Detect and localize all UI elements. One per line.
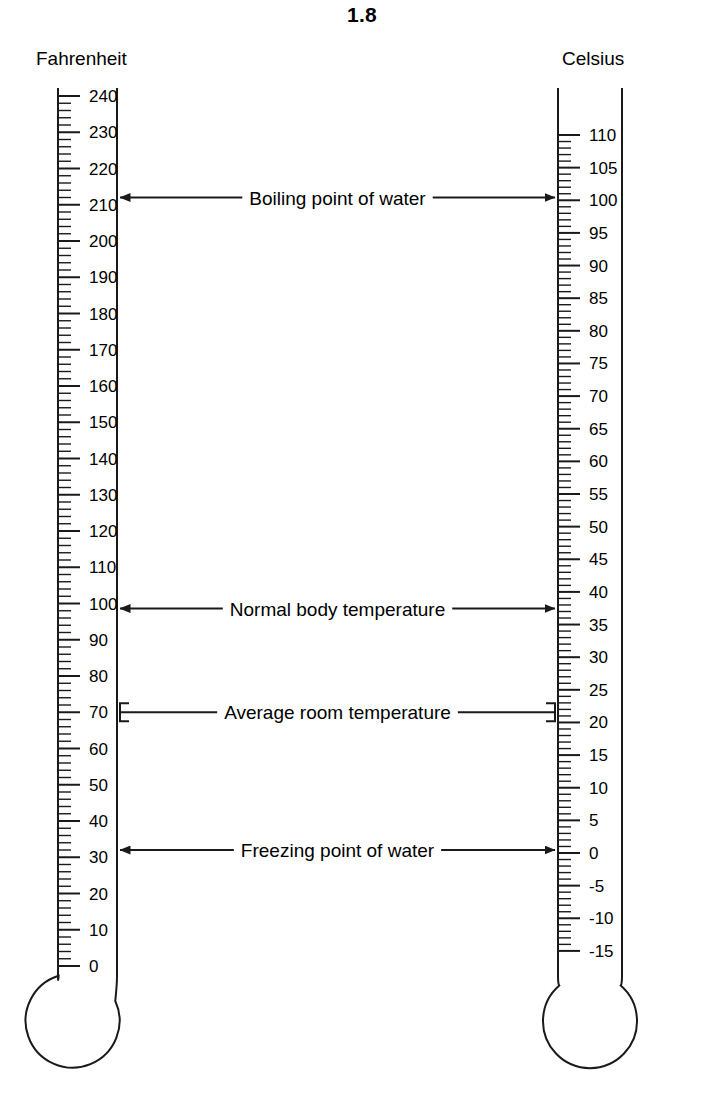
tick-label: 50 (89, 776, 108, 795)
tick-label: 45 (589, 550, 608, 569)
tick-label: 0 (589, 844, 598, 863)
tick-label: 20 (89, 885, 108, 904)
tick-label: 160 (89, 377, 117, 396)
tick-label: 120 (89, 522, 117, 541)
fahrenheit-thermometer: 2402302202102001901801701601501401301201… (26, 87, 120, 1068)
tick-label: 80 (589, 322, 608, 341)
annotation: Boiling point of water (120, 188, 555, 209)
tick-label: -15 (589, 942, 614, 961)
annotation-label: Average room temperature (224, 702, 451, 723)
tick-label: 70 (589, 387, 608, 406)
annotation: Normal body temperature (120, 599, 555, 620)
tick-label: 140 (89, 450, 117, 469)
celsius-tick-marks (558, 135, 580, 951)
tick-label: 50 (589, 518, 608, 537)
tick-label: 130 (89, 486, 117, 505)
tick-label: 230 (89, 123, 117, 142)
tick-label: 10 (89, 921, 108, 940)
tick-label: 20 (589, 713, 608, 732)
fahrenheit-tick-marks (58, 96, 80, 966)
celsius-tick-labels: 1101051009590858075706560555045403530252… (589, 126, 617, 961)
tick-label: 240 (89, 87, 117, 106)
tick-label: 200 (89, 232, 117, 251)
tick-label: 110 (589, 126, 616, 145)
tick-label: 80 (89, 667, 108, 686)
annotation-connectors: Boiling point of waterNormal body temper… (120, 188, 555, 862)
tick-label: 105 (589, 159, 617, 178)
tick-label: 220 (89, 160, 117, 179)
annotation-label: Boiling point of water (249, 188, 426, 209)
tick-label: 40 (89, 812, 108, 831)
tick-label: 180 (89, 305, 117, 324)
tick-label: 5 (589, 811, 598, 830)
tick-label: 0 (89, 957, 98, 976)
annotation-label: Freezing point of water (241, 840, 435, 861)
tick-label: 30 (89, 848, 108, 867)
tick-label: 100 (589, 191, 617, 210)
tick-label: 75 (589, 354, 608, 373)
annotation: Average room temperature (120, 702, 555, 723)
tick-label: 55 (589, 485, 608, 504)
tick-label: 170 (89, 341, 117, 360)
tick-label: 65 (589, 420, 608, 439)
tick-label: -5 (589, 877, 604, 896)
tick-label: 10 (589, 779, 608, 798)
tick-label: 85 (589, 289, 608, 308)
tick-label: 60 (589, 452, 608, 471)
thermometer-comparison-figure: 1.8 Fahrenheit Celsius 24023022021020019… (0, 0, 724, 1103)
tick-label: 90 (589, 257, 608, 276)
tick-label: 110 (89, 558, 116, 577)
annotation: Freezing point of water (120, 840, 555, 861)
tick-label: 150 (89, 413, 117, 432)
tick-label: -10 (589, 909, 614, 928)
tick-label: 30 (589, 648, 608, 667)
thermometers-svg: 2402302202102001901801701601501401301201… (0, 0, 724, 1103)
tick-label: 95 (589, 224, 608, 243)
fahrenheit-tick-labels: 2402302202102001901801701601501401301201… (89, 87, 117, 976)
tick-label: 100 (89, 595, 117, 614)
tick-label: 35 (589, 616, 608, 635)
tick-label: 25 (589, 681, 608, 700)
tick-label: 15 (589, 746, 608, 765)
tick-label: 40 (589, 583, 608, 602)
tick-label: 70 (89, 703, 108, 722)
tick-label: 210 (89, 196, 117, 215)
tick-label: 190 (89, 268, 117, 287)
celsius-thermometer: 1101051009590858075706560555045403530252… (543, 88, 637, 1068)
annotation-label: Normal body temperature (230, 599, 445, 620)
tick-label: 90 (89, 631, 108, 650)
tick-label: 60 (89, 740, 108, 759)
